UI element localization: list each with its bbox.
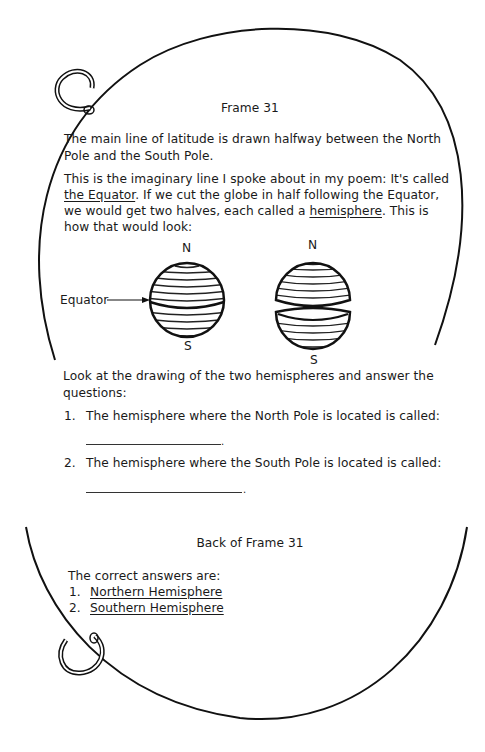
answer-blank-2[interactable] <box>86 492 242 493</box>
binder-ring-icon <box>57 71 94 114</box>
answer-number: 1. <box>69 584 81 600</box>
paragraph-line: Pole and the South Pole. <box>64 148 213 164</box>
term-hemisphere: hemisphere <box>309 204 382 218</box>
question-number: 1. <box>64 408 76 424</box>
answer-blank-1[interactable] <box>86 444 221 445</box>
split-globe-illustration <box>270 263 356 349</box>
paragraph-line: we would get two halves, each called a h… <box>64 203 429 219</box>
answer-northern-hemisphere: Northern Hemisphere <box>90 584 222 600</box>
paragraph-line: The main line of latitude is drawn halfw… <box>64 131 441 147</box>
answer-number: 2. <box>69 600 81 616</box>
paragraph-text: . If we cut the globe in half following … <box>135 188 439 202</box>
paragraph-line: how that would look: <box>64 219 192 235</box>
blank-period: . <box>243 484 246 495</box>
equator-arrow-icon <box>107 297 150 303</box>
paragraph-text: . This is <box>382 204 429 218</box>
front-frame-title: Frame 31 <box>200 100 300 116</box>
north-label-right: N <box>308 237 317 253</box>
question-text: The hemisphere where the South Pole is l… <box>86 455 441 471</box>
term-equator: the Equator <box>64 188 135 202</box>
instruction-line: questions: <box>63 385 127 401</box>
paragraph-line: the Equator. If we cut the globe in half… <box>64 187 439 203</box>
equator-label: Equator <box>60 292 108 308</box>
blank-period: . <box>221 436 224 447</box>
question-number: 2. <box>64 455 76 471</box>
question-text: The hemisphere where the North Pole is l… <box>86 408 440 424</box>
back-frame-title: Back of Frame 31 <box>190 535 310 551</box>
north-label-left: N <box>182 240 191 256</box>
south-label-right: S <box>310 352 318 368</box>
south-label-left: S <box>184 338 192 354</box>
instruction-line: Look at the drawing of the two hemispher… <box>63 368 434 384</box>
answers-intro: The correct answers are: <box>68 568 220 584</box>
back-card-outline <box>26 527 467 719</box>
paragraph-line: This is the imaginary line I spoke about… <box>64 171 449 187</box>
answer-southern-hemisphere: Southern Hemisphere <box>90 600 224 616</box>
whole-globe-illustration <box>140 263 234 337</box>
paragraph-text: we would get two halves, each called a <box>64 204 309 218</box>
